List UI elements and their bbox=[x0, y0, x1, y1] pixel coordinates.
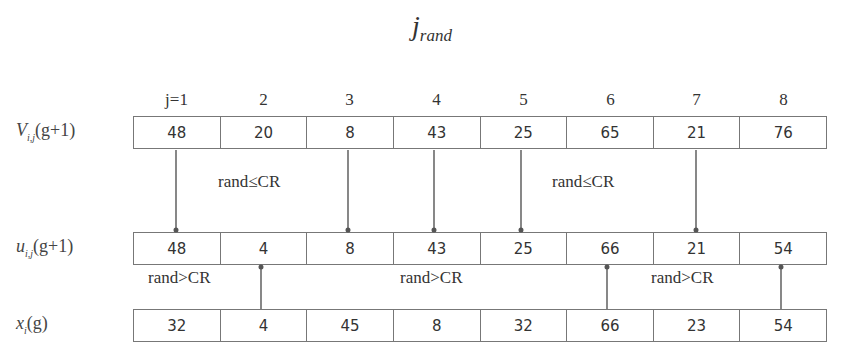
arrow-down-icon bbox=[694, 150, 698, 232]
arrow-up-icon bbox=[779, 265, 783, 309]
arrows-layer bbox=[0, 0, 864, 363]
arrow-down-icon bbox=[519, 150, 523, 232]
arrow-down-icon bbox=[174, 150, 178, 232]
arrow-up-icon bbox=[259, 265, 263, 309]
arrow-up-icon bbox=[605, 265, 609, 309]
arrow-down-icon bbox=[346, 150, 350, 232]
arrow-down-icon bbox=[432, 150, 436, 232]
